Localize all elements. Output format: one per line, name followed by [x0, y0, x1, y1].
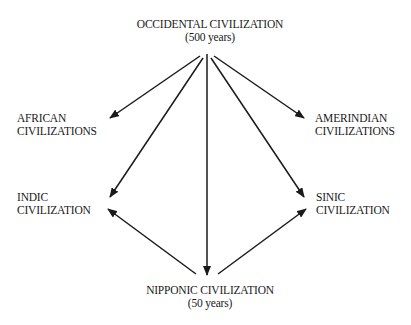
indic-civilization-node: INDIC CIVILIZATION [17, 191, 91, 217]
occidental-civilization-node: OCCIDENTAL CIVILIZATION (500 years) [110, 18, 310, 44]
african-line1: AFRICAN [17, 112, 97, 125]
indic-line2: CIVILIZATION [17, 204, 91, 217]
sinic-civilization-node: SINIC CIVILIZATION [316, 191, 390, 217]
african-civilizations-node: AFRICAN CIVILIZATIONS [17, 112, 97, 138]
african-line2: CIVILIZATIONS [17, 125, 97, 138]
arrow-occidental-to-amerindian [214, 56, 304, 118]
arrow-occidental-to-sinic [211, 58, 304, 197]
nipponic-civilization-node: NIPPONIC CIVILIZATION (50 years) [110, 284, 310, 310]
indic-line1: INDIC [17, 191, 91, 204]
amerindian-line1: AMERINDIAN [315, 112, 395, 125]
occidental-duration: (500 years) [110, 31, 310, 44]
nipponic-duration: (50 years) [110, 297, 310, 310]
occidental-name: OCCIDENTAL CIVILIZATION [110, 18, 310, 31]
arrow-occidental-to-indic [110, 58, 203, 197]
arrow-nipponic-to-sinic [218, 209, 306, 274]
arrow-nipponic-to-indic [108, 209, 196, 274]
amerindian-line2: CIVILIZATIONS [315, 125, 395, 138]
sinic-line2: CIVILIZATION [316, 204, 390, 217]
nipponic-name: NIPPONIC CIVILIZATION [110, 284, 310, 297]
arrow-occidental-to-african [110, 56, 200, 118]
amerindian-civilizations-node: AMERINDIAN CIVILIZATIONS [315, 112, 395, 138]
arrows-layer [0, 0, 411, 325]
sinic-line1: SINIC [316, 191, 390, 204]
